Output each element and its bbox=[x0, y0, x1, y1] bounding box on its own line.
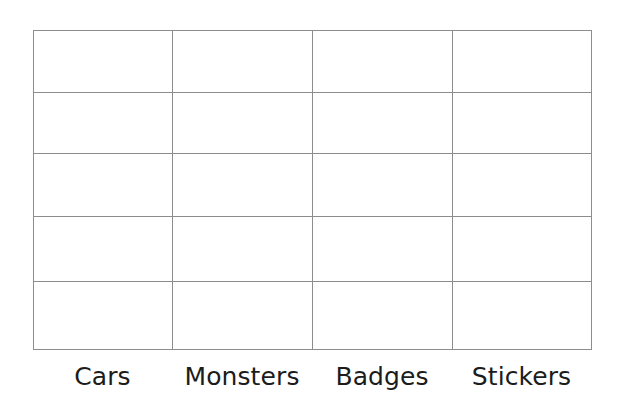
grid-cell-r4-c3[interactable] bbox=[453, 282, 592, 350]
grid-cell-r0-c2[interactable] bbox=[313, 31, 453, 93]
grid-cell-r1-c0[interactable] bbox=[34, 93, 173, 154]
grid-cell-r2-c2[interactable] bbox=[313, 154, 453, 217]
table-row bbox=[34, 217, 592, 282]
grid-cell-r4-c2[interactable] bbox=[313, 282, 453, 350]
grid-cell-r4-c0[interactable] bbox=[34, 282, 173, 350]
grid-cell-r0-c3[interactable] bbox=[453, 31, 592, 93]
category-label-cars: Cars bbox=[33, 355, 172, 397]
grid-cell-r3-c1[interactable] bbox=[173, 217, 313, 282]
grid-body bbox=[34, 31, 592, 350]
grid-cell-r0-c0[interactable] bbox=[34, 31, 173, 93]
table-row bbox=[34, 31, 592, 93]
grid-cell-r2-c0[interactable] bbox=[34, 154, 173, 217]
grid-cell-r1-c1[interactable] bbox=[173, 93, 313, 154]
category-label-monsters: Monsters bbox=[172, 355, 312, 397]
grid-cell-r2-c1[interactable] bbox=[173, 154, 313, 217]
grid-cell-r2-c3[interactable] bbox=[453, 154, 592, 217]
grid-cell-r3-c2[interactable] bbox=[313, 217, 453, 282]
table-row bbox=[34, 282, 592, 350]
grid-cell-r1-c3[interactable] bbox=[453, 93, 592, 154]
category-label-badges: Badges bbox=[312, 355, 452, 397]
grid-cell-r0-c1[interactable] bbox=[173, 31, 313, 93]
grid-cell-r4-c1[interactable] bbox=[173, 282, 313, 350]
table-row bbox=[34, 93, 592, 154]
grid-cell-r3-c0[interactable] bbox=[34, 217, 173, 282]
table-row bbox=[34, 154, 592, 217]
category-axis-labels: Cars Monsters Badges Stickers bbox=[33, 355, 591, 397]
pictograph-grid bbox=[33, 30, 592, 350]
figure-root: Cars Monsters Badges Stickers bbox=[0, 0, 617, 404]
category-label-stickers: Stickers bbox=[452, 355, 591, 397]
grid-cell-r3-c3[interactable] bbox=[453, 217, 592, 282]
grid-cell-r1-c2[interactable] bbox=[313, 93, 453, 154]
